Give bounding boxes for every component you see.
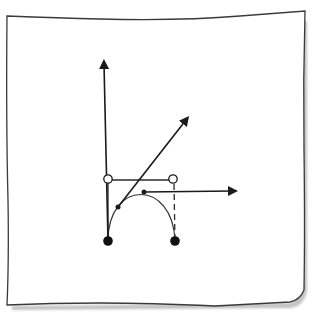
curve-point-q2 — [142, 190, 147, 195]
horizontal-tangent-arrow — [144, 191, 233, 192]
endpoint-p0 — [103, 236, 113, 246]
control-point-p2 — [169, 175, 177, 183]
endpoint-p3 — [170, 236, 180, 246]
bezier-sketch — [0, 0, 316, 318]
diagram-canvas — [0, 0, 316, 318]
control-point-p1 — [104, 175, 112, 183]
curve-point-q1 — [116, 205, 121, 210]
